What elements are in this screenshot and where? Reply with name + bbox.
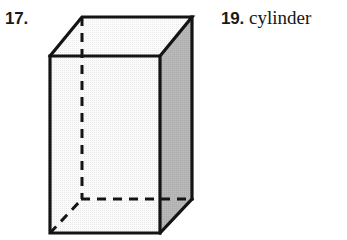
top-face-outline	[50, 17, 192, 56]
exercise-number-17: 17.	[5, 9, 28, 29]
prism-hidden-edges	[50, 17, 193, 233]
prism-top-face	[50, 17, 192, 56]
bottom-right-diagonal-edge	[160, 199, 192, 233]
prism-visible-edges	[50, 17, 192, 233]
exercise-answer-19: cylinder	[249, 7, 311, 28]
worksheet-page: 17.	[0, 0, 347, 240]
prism-front-face-texture	[50, 56, 160, 233]
prism-top-face-texture	[50, 17, 192, 56]
rectangular-prism-figure	[0, 0, 347, 240]
front-face-outline	[50, 56, 160, 233]
hidden-bottom-left-diagonal	[50, 199, 82, 233]
prism-right-face-texture	[160, 17, 192, 233]
exercise-number-19: 19.	[221, 8, 244, 29]
prism-front-face	[50, 56, 160, 233]
prism-svg	[0, 0, 347, 240]
exercise-item-19: 19. cylinder	[221, 7, 311, 29]
prism-right-face	[160, 17, 192, 233]
